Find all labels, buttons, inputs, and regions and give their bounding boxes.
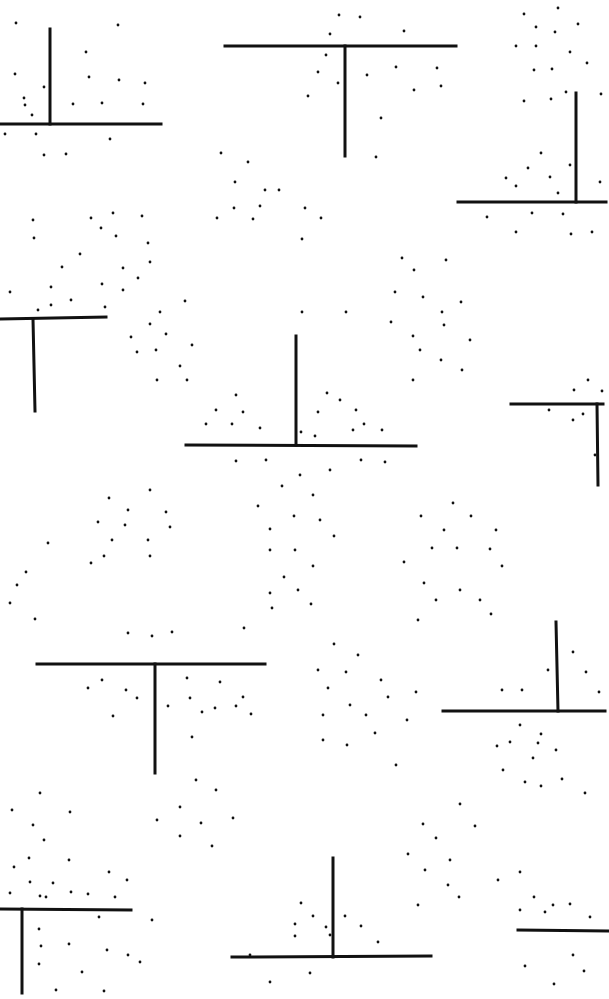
dot: [149, 323, 152, 326]
dot: [553, 983, 556, 986]
dot: [125, 689, 128, 692]
dot: [598, 691, 601, 694]
dot: [406, 719, 409, 722]
dot: [186, 677, 189, 680]
dot: [242, 411, 245, 414]
dot: [101, 102, 104, 105]
dot: [515, 185, 518, 188]
dot: [61, 266, 64, 269]
dot: [43, 154, 46, 157]
dot: [519, 909, 522, 912]
dot: [329, 934, 332, 937]
dot: [557, 7, 560, 10]
dot: [32, 824, 35, 827]
dot: [540, 785, 543, 788]
dot: [497, 879, 500, 882]
dot: [25, 571, 28, 574]
dot: [366, 74, 369, 77]
dot: [502, 769, 505, 772]
dot: [141, 215, 144, 218]
dot: [215, 789, 218, 792]
dot: [594, 454, 597, 457]
dot: [28, 857, 31, 860]
dot: [127, 632, 130, 635]
dot: [519, 871, 522, 874]
dot: [523, 13, 526, 16]
dot: [333, 643, 336, 646]
dot: [40, 945, 43, 948]
dot: [33, 237, 36, 240]
dot: [490, 613, 493, 616]
dot: [319, 519, 322, 522]
dot: [352, 429, 355, 432]
dot: [489, 548, 492, 551]
dot: [317, 71, 320, 74]
dot: [415, 691, 418, 694]
dot: [179, 835, 182, 838]
dot: [147, 242, 150, 245]
dot: [151, 635, 154, 638]
dot: [126, 879, 129, 882]
dot: [127, 509, 130, 512]
dot: [179, 365, 182, 368]
dot: [565, 91, 568, 94]
dot: [375, 156, 378, 159]
dot: [561, 778, 564, 781]
dot: [585, 671, 588, 674]
background: [0, 0, 609, 999]
dot: [304, 207, 307, 210]
dot: [127, 954, 130, 957]
dot: [205, 423, 208, 426]
dot: [317, 411, 320, 414]
dot: [459, 589, 462, 592]
dot: [149, 261, 152, 264]
dot: [68, 859, 71, 862]
dot: [515, 45, 518, 48]
dot: [509, 741, 512, 744]
dot: [52, 882, 55, 885]
dot: [431, 547, 434, 550]
dot: [535, 45, 538, 48]
dot: [109, 138, 112, 141]
dot: [98, 916, 101, 919]
dot: [81, 971, 84, 974]
dot: [29, 881, 32, 884]
dot: [264, 189, 267, 192]
dot: [521, 689, 524, 692]
dot: [401, 257, 404, 260]
dot: [312, 494, 315, 497]
dot: [345, 671, 348, 674]
dot: [505, 177, 508, 180]
dot: [322, 739, 325, 742]
dot: [390, 321, 393, 324]
dot: [195, 779, 198, 782]
dot: [34, 618, 37, 621]
dot: [101, 283, 104, 286]
dot: [572, 419, 575, 422]
dot: [211, 845, 214, 848]
dot: [149, 489, 152, 492]
dot: [11, 809, 14, 812]
dot: [4, 133, 7, 136]
dot: [443, 324, 446, 327]
dot: [549, 176, 552, 179]
dot: [136, 351, 139, 354]
dot: [159, 311, 162, 314]
dot: [9, 291, 12, 294]
dot: [43, 86, 46, 89]
dot: [395, 66, 398, 69]
dot: [435, 599, 438, 602]
dot: [269, 528, 272, 531]
dot: [179, 806, 182, 809]
dot: [235, 394, 238, 397]
dot: [31, 114, 34, 117]
dot: [533, 69, 536, 72]
dot: [360, 925, 363, 928]
dot: [165, 333, 168, 336]
dot: [130, 336, 133, 339]
dot: [137, 277, 140, 280]
dot: [326, 392, 329, 395]
dot: [601, 390, 604, 393]
dot: [100, 227, 103, 230]
dot: [103, 555, 106, 558]
